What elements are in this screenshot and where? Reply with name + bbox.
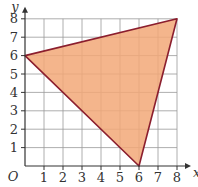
coordinate-diagram: 1234567812345678Oxy [0, 0, 198, 187]
y-axis-arrow-icon [22, 7, 28, 13]
y-tick-label: 4 [10, 85, 18, 100]
y-tick-label: 6 [10, 48, 18, 63]
x-axis-arrow-icon [185, 163, 191, 169]
y-tick-label: 3 [10, 103, 18, 118]
y-tick-label: 1 [10, 140, 18, 155]
x-tick-label: 2 [59, 170, 67, 185]
y-axis-label: y [10, 0, 19, 14]
x-tick-label: 1 [40, 170, 48, 185]
x-tick-label: 3 [78, 170, 86, 185]
y-tick-label: 7 [10, 30, 18, 45]
x-tick-label: 5 [116, 170, 124, 185]
y-tick-label: 2 [10, 122, 18, 137]
x-tick-label: 8 [173, 170, 181, 185]
origin-label: O [8, 169, 19, 184]
x-axis-label: x [193, 165, 198, 180]
x-tick-label: 4 [97, 170, 105, 185]
x-tick-label: 7 [154, 170, 162, 185]
y-tick-label: 5 [10, 67, 18, 82]
x-tick-label: 6 [135, 170, 143, 185]
